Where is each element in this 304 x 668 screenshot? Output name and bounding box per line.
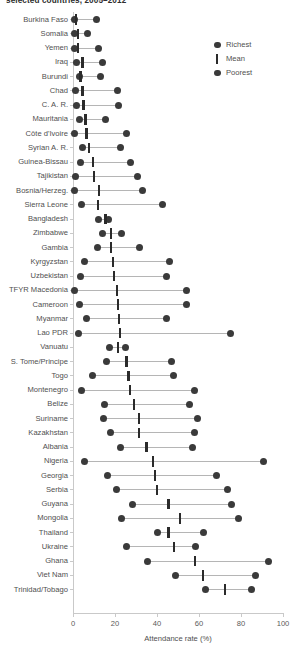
row-label: Bangladesh (0, 212, 68, 226)
row-label: Mongolia (0, 511, 68, 525)
richest-marker (235, 515, 242, 522)
y-axis-tick (70, 304, 73, 305)
row-label: Thailand (0, 526, 68, 540)
mean-marker (138, 413, 140, 423)
y-axis-tick (70, 532, 73, 533)
mean-marker (194, 556, 196, 566)
row-label: Zimbabwe (0, 226, 68, 240)
poorest-marker (71, 287, 78, 294)
mean-marker (84, 114, 86, 124)
range-connector (176, 575, 256, 576)
mean-marker (145, 442, 147, 452)
chart-row: Albania (0, 440, 304, 454)
richest-marker (122, 344, 129, 351)
mean-marker (81, 86, 83, 96)
mean-marker (81, 57, 83, 67)
row-label: Gambia (0, 241, 68, 255)
richest-marker (136, 244, 143, 251)
mean-marker (77, 43, 79, 53)
richest-marker (213, 472, 220, 479)
range-connector (74, 290, 186, 291)
richest-marker (168, 358, 175, 365)
richest-marker (191, 387, 198, 394)
dot-icon (214, 42, 221, 49)
y-axis-tick (70, 447, 73, 448)
poorest-marker (75, 330, 82, 337)
chart-row: Gambia (0, 241, 304, 255)
mean-marker (110, 242, 112, 252)
range-connector (80, 162, 130, 163)
range-connector (127, 546, 196, 547)
poorest-marker (71, 130, 78, 137)
chart-row: Kazakhstan (0, 426, 304, 440)
richest-marker (200, 529, 207, 536)
chart-row: TFYR Macedonia (0, 283, 304, 297)
richest-marker (97, 73, 104, 80)
chart-row: Georgia (0, 469, 304, 483)
mean-marker (138, 428, 140, 438)
mean-marker (116, 285, 118, 295)
row-label: Myanmar (0, 312, 68, 326)
x-axis-title: Attendance rate (%) (73, 634, 283, 643)
mean-marker (133, 399, 135, 409)
poorest-marker (73, 102, 80, 109)
legend-item: Poorest (214, 66, 298, 80)
row-label: Belize (0, 397, 68, 411)
mean-marker (167, 527, 169, 537)
x-axis-tick-label: 100 (277, 619, 290, 628)
chart-row: Kyrgyzstan (0, 255, 304, 269)
y-axis-tick (70, 404, 73, 405)
richest-marker (127, 159, 134, 166)
richest-marker (115, 102, 122, 109)
chart-row: Bangladesh (0, 212, 304, 226)
row-label: Guinea-Bissau (0, 155, 68, 169)
legend-label: Mean (226, 52, 245, 66)
mean-marker (127, 371, 129, 381)
poorest-marker (94, 244, 101, 251)
richest-marker (260, 458, 267, 465)
poorest-marker (76, 301, 83, 308)
row-label: Iraq (0, 55, 68, 69)
chart-row: Tajikistan (0, 169, 304, 183)
x-axis-tick (157, 613, 158, 617)
row-label: Burkina Faso (0, 13, 68, 27)
chart-row: Montenegro (0, 383, 304, 397)
chart-row: Trinidad/Tobago (0, 583, 304, 597)
range-connector (78, 333, 230, 334)
richest-marker (191, 429, 198, 436)
range-connector (108, 475, 217, 476)
richest-marker (95, 45, 102, 52)
richest-marker (163, 273, 170, 280)
chart-row: Mongolia (0, 511, 304, 525)
range-connector (74, 190, 142, 191)
poorest-marker (106, 344, 113, 351)
richest-marker (166, 258, 173, 265)
y-axis-tick (70, 546, 73, 547)
row-label: Uzbekistan (0, 269, 68, 283)
x-axis-tick (73, 613, 74, 617)
mean-marker (129, 385, 131, 395)
row-label: Burundi (0, 70, 68, 84)
mean-marker (117, 299, 119, 309)
row-label: Chad (0, 84, 68, 98)
mean-marker (154, 470, 156, 480)
range-connector (205, 589, 251, 590)
y-axis-tick (70, 204, 73, 205)
chart-row: Myanmar (0, 312, 304, 326)
mean-marker (173, 542, 175, 552)
range-connector (85, 261, 170, 262)
poorest-marker (123, 543, 130, 550)
chart-row: Ghana (0, 554, 304, 568)
richest-marker (248, 586, 255, 593)
mean-marker (156, 485, 158, 495)
y-axis-tick (70, 147, 73, 148)
y-axis-tick (70, 390, 73, 391)
poorest-marker (129, 501, 136, 508)
row-label: Kazakhstan (0, 426, 68, 440)
y-axis-tick (70, 432, 73, 433)
y-axis-tick (70, 233, 73, 234)
mean-marker (98, 185, 100, 195)
richest-marker (117, 144, 124, 151)
chart-row: Cameroon (0, 298, 304, 312)
legend-item: Mean (214, 52, 298, 66)
